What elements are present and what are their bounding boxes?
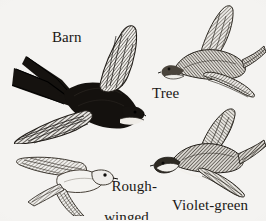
violet-green-body — [171, 144, 243, 173]
label-rough-winged-line2: winged — [96, 210, 157, 221]
violet-green-tail — [238, 140, 266, 164]
swallow-identification-plate: Barn Tree Rough- winged Violet-green — [0, 0, 266, 220]
label-tree: Tree — [152, 86, 179, 101]
violet-green-swallow-illustration — [150, 106, 266, 198]
label-barn: Barn — [52, 30, 82, 45]
label-violet-green: Violet-green — [172, 198, 248, 213]
label-rough-winged: Rough- winged — [96, 163, 157, 220]
tree-swallow-illustration — [158, 2, 266, 98]
tree-swallow-tail — [242, 46, 266, 68]
label-rough-winged-line1: Rough- — [111, 178, 157, 194]
barn-swallow-upper-wing — [100, 26, 137, 92]
